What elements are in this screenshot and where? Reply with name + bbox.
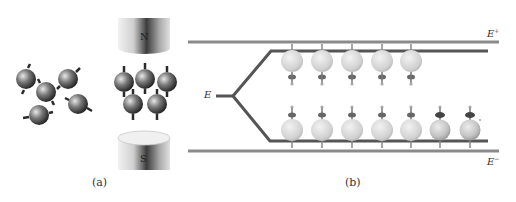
aligned-spins (114, 63, 177, 120)
spin-particle (123, 89, 143, 120)
spin-particle (147, 89, 167, 120)
input-energy-label: E (204, 89, 211, 100)
magnet-south: S (118, 131, 170, 170)
lower-plate-label: E− (487, 155, 499, 167)
panel-a-illustration: N (0, 0, 180, 202)
spin-particle (36, 79, 56, 105)
spin-particle (114, 66, 134, 97)
caption-b: (b) (345, 176, 361, 189)
magnet-south-label: S (140, 153, 147, 164)
spin-particle (65, 94, 92, 114)
panel-b-illustration (180, 0, 516, 202)
random-spins (16, 64, 92, 125)
spin-particle (57, 68, 80, 89)
upper-plate-label: E+ (487, 27, 499, 39)
spin-particle (157, 66, 177, 97)
panel-a-magnetic-alignment: N (0, 0, 180, 202)
spin-particle (23, 105, 53, 125)
magnet-north: N (118, 18, 170, 54)
spin-particle (135, 63, 155, 94)
spin-particle (16, 64, 36, 94)
magnet-north-label: N (140, 31, 149, 42)
caption-a: (a) (92, 176, 107, 189)
panel-b-energy-splitting: E E+ E− (b) (180, 0, 516, 202)
